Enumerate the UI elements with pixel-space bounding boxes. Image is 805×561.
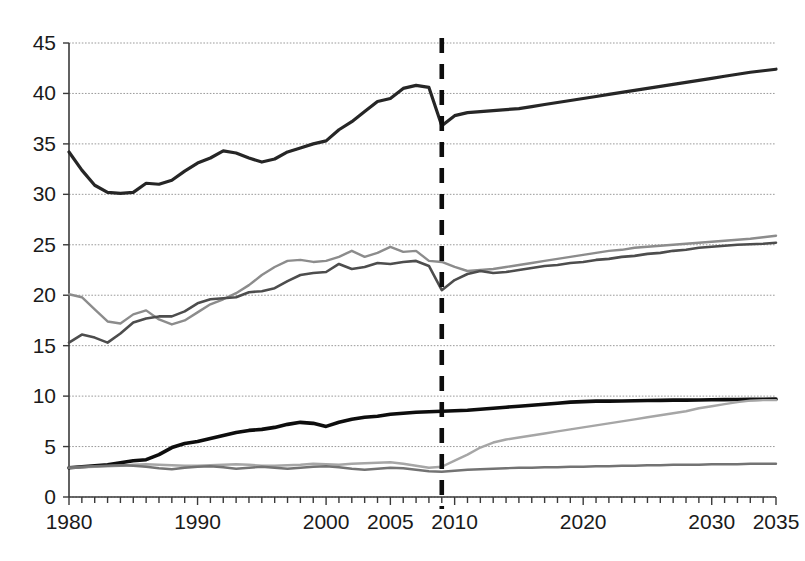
x-tick-label-2005: 2005	[367, 510, 414, 533]
data-series	[69, 69, 776, 472]
y-axis-tick-labels: 051015202530354045	[33, 31, 56, 508]
x-tick-label-1990: 1990	[174, 510, 221, 533]
y-tick-label-45: 45	[33, 31, 56, 54]
series-top-total	[69, 69, 776, 193]
y-tick-label-10: 10	[33, 384, 56, 407]
x-axis-ticks	[69, 497, 776, 505]
y-tick-label-35: 35	[33, 132, 56, 155]
y-tick-label-40: 40	[33, 81, 56, 104]
y-tick-label-0: 0	[44, 485, 56, 508]
chart-container: 051015202530354045 198019902000200520102…	[0, 0, 805, 561]
y-tick-label-15: 15	[33, 334, 56, 357]
y-tick-label-30: 30	[33, 182, 56, 205]
x-tick-label-2000: 2000	[303, 510, 350, 533]
x-tick-label-2035: 2035	[753, 510, 800, 533]
line-chart: 051015202530354045 198019902000200520102…	[0, 0, 805, 561]
y-axis-ticks	[63, 43, 69, 497]
x-tick-label-2010: 2010	[431, 510, 478, 533]
y-tick-label-25: 25	[33, 233, 56, 256]
gridlines	[69, 43, 776, 497]
series-bottom-black	[69, 399, 776, 468]
x-tick-label-1980: 1980	[46, 510, 93, 533]
x-tick-label-2030: 2030	[688, 510, 735, 533]
series-mid-dark	[69, 243, 776, 343]
x-tick-label-2020: 2020	[560, 510, 607, 533]
series-mid-light	[69, 236, 776, 325]
y-tick-label-20: 20	[33, 283, 56, 306]
y-tick-label-5: 5	[44, 435, 56, 458]
x-axis-tick-labels: 19801990200020052010202020302035	[46, 510, 800, 533]
